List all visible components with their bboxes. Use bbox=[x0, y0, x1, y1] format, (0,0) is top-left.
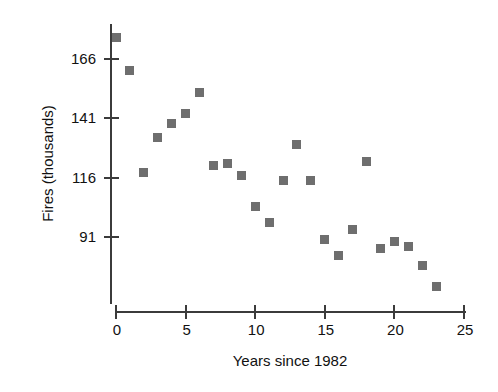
data-point-marker bbox=[139, 168, 148, 177]
scatter-chart-figure: Fires (thousands) 91116141166 0510152025… bbox=[0, 0, 498, 392]
data-point-marker bbox=[306, 176, 315, 185]
x-axis-label: Years since 1982 bbox=[116, 352, 464, 369]
data-point-marker bbox=[334, 251, 343, 260]
data-point-marker bbox=[237, 171, 246, 180]
data-point-marker bbox=[112, 33, 121, 42]
data-point-marker bbox=[125, 66, 134, 75]
data-point-marker bbox=[362, 157, 371, 166]
data-point-marker bbox=[376, 244, 385, 253]
data-point-marker bbox=[195, 88, 204, 97]
data-point-marker bbox=[404, 242, 413, 251]
plot-area bbox=[0, 0, 498, 392]
data-point-marker bbox=[279, 176, 288, 185]
data-point-marker bbox=[265, 218, 274, 227]
data-point-marker bbox=[292, 140, 301, 149]
data-point-marker bbox=[223, 159, 232, 168]
data-point-marker bbox=[320, 235, 329, 244]
data-point-marker bbox=[153, 133, 162, 142]
data-point-marker bbox=[209, 161, 218, 170]
data-point-marker bbox=[167, 119, 176, 128]
data-point-marker bbox=[251, 202, 260, 211]
data-point-marker bbox=[390, 237, 399, 246]
data-point-marker bbox=[348, 225, 357, 234]
data-point-marker bbox=[418, 261, 427, 270]
data-point-marker bbox=[432, 282, 441, 291]
data-point-marker bbox=[181, 109, 190, 118]
